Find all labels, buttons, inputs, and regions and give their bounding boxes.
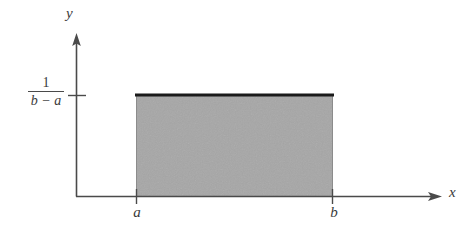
uniform-distribution-figure: y x 1 b − a a b: [0, 0, 473, 236]
shaded-density-region-texture: [136, 95, 333, 196]
y-axis-tick-label: 1 b − a: [22, 75, 70, 108]
plot-canvas: [0, 0, 473, 236]
fraction-numerator: 1: [28, 75, 64, 91]
x-axis-tick-label-a: a: [127, 205, 147, 220]
x-axis-label: x: [449, 185, 456, 200]
fraction: 1 b − a: [28, 75, 64, 108]
x-axis-tick-label-b: b: [324, 205, 344, 220]
y-axis-label: y: [66, 6, 73, 21]
fraction-denominator: b − a: [28, 92, 64, 108]
